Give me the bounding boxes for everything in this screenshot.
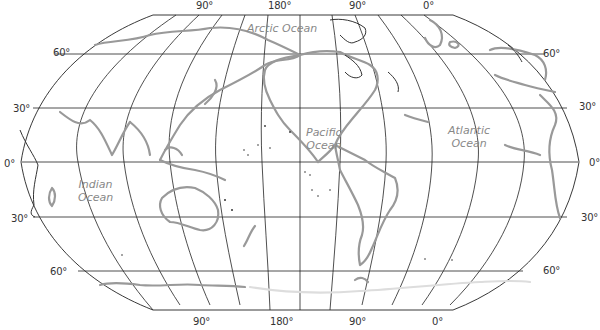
lat-label-left-60s: 60° bbox=[50, 266, 67, 277]
lon-label-bottom-90w: 90° bbox=[193, 316, 210, 327]
arctic-ocean-label: Arctic Ocean bbox=[247, 22, 317, 35]
lat-label-left-30s: 30° bbox=[11, 213, 28, 224]
lon-label-top-180: 180° bbox=[268, 0, 291, 11]
indian-ocean-label: Indian Ocean bbox=[78, 178, 113, 204]
meridians bbox=[77, 15, 525, 310]
atlantic-ocean-label: Atlantic Ocean bbox=[448, 124, 490, 150]
lat-label-right-30s: 30° bbox=[581, 212, 598, 223]
lon-label-top-90e: 90° bbox=[349, 0, 366, 11]
pacific-islands bbox=[121, 125, 453, 261]
lon-label-bottom-180: 180° bbox=[270, 316, 293, 327]
lat-label-right-60s: 60° bbox=[543, 265, 560, 276]
lat-label-right-30n: 30° bbox=[579, 101, 596, 112]
lon-label-bottom-0: 0° bbox=[432, 316, 443, 327]
lat-label-left-30n: 30° bbox=[13, 103, 30, 114]
pacific-ocean-label: Pacific Ocean bbox=[306, 126, 342, 152]
lat-label-left-60n: 60° bbox=[53, 47, 70, 58]
lat-label-right-0: 0° bbox=[589, 157, 600, 168]
lat-label-right-60n: 60° bbox=[543, 48, 560, 59]
lon-label-bottom-90e: 90° bbox=[349, 316, 366, 327]
lat-label-left-0: 0° bbox=[4, 158, 15, 169]
world-map bbox=[0, 0, 600, 330]
lon-label-top-0: 0° bbox=[423, 0, 434, 11]
lon-label-top-90w: 90° bbox=[196, 0, 213, 11]
coastlines bbox=[20, 19, 560, 292]
